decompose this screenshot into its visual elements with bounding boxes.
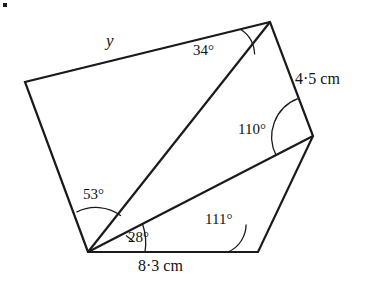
label-angle-28: 28° — [128, 230, 149, 245]
label-side-y: y — [106, 32, 114, 49]
label-side-8-3-cm: 8·3 cm — [138, 258, 183, 274]
label-angle-34: 34° — [193, 43, 214, 58]
quadrilateral-outline — [25, 22, 313, 252]
angle-arc-53 — [77, 207, 121, 215]
angle-arc-111 — [228, 225, 246, 252]
geometry-figure — [0, 0, 365, 282]
diagram-page: y 34° 4·5 cm 110° 53° 111° 28° 8·3 cm — [0, 0, 365, 282]
label-side-4-5-cm: 4·5 cm — [295, 71, 340, 87]
angle-arc-110 — [272, 99, 298, 156]
diagonal-bottomleft-to-right — [88, 136, 313, 252]
diagonal-bottomleft-to-top — [88, 22, 270, 252]
label-angle-53: 53° — [83, 187, 104, 202]
label-angle-110: 110° — [238, 122, 266, 137]
label-angle-111: 111° — [205, 212, 232, 227]
